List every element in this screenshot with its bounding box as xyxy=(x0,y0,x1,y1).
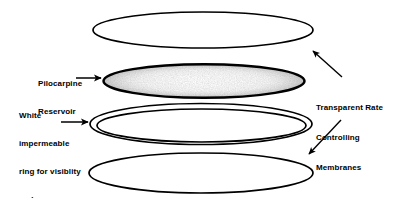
ring-inner-ellipse xyxy=(97,109,306,142)
label-membranes-line-2: Controlling xyxy=(316,133,383,143)
pilocarpine-reservoir-group xyxy=(104,64,305,98)
top-membrane-ellipse xyxy=(93,12,313,48)
label-membranes-line-3: Membranes xyxy=(316,163,383,173)
label-pilocarpine-reservoir-line-1: Pilocarpine xyxy=(38,79,82,88)
bottom-membrane-ellipse xyxy=(89,153,313,193)
membrane-top-arrow xyxy=(313,51,342,77)
label-white-impermeable-ring-line-1: White xyxy=(19,111,81,120)
label-transparent-rate-controlling-membranes: Transparent Rate Controlling Membranes xyxy=(316,83,383,193)
figure-canvas: Pilocarpine Reservoir White impermeable … xyxy=(0,0,408,198)
label-white-impermeable-ring: White impermeable ring for visiblity and… xyxy=(19,92,81,198)
label-membranes-line-1: Transparent Rate xyxy=(316,103,383,113)
label-white-impermeable-ring-line-4: and xyxy=(19,195,81,198)
label-white-impermeable-ring-line-3: ring for visiblity xyxy=(19,167,81,176)
label-white-impermeable-ring-line-2: impermeable xyxy=(19,139,81,148)
white-impermeable-ring-group xyxy=(90,104,312,145)
